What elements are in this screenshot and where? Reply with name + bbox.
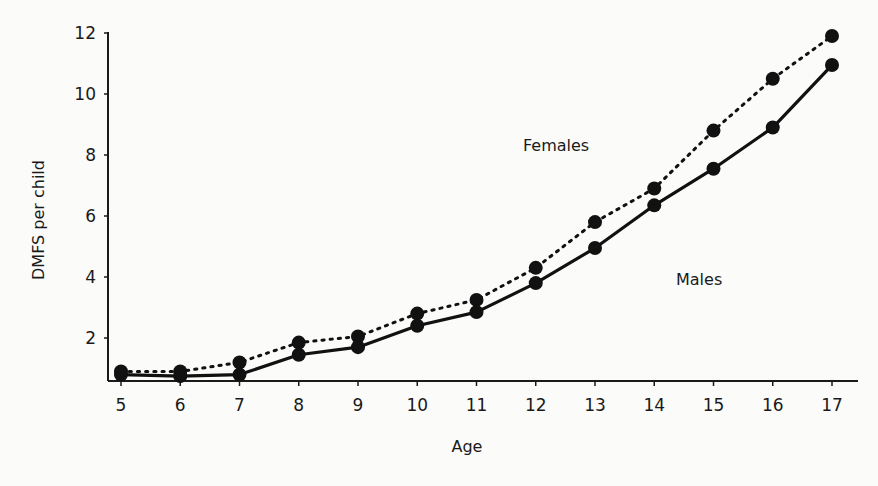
y-axis-title: DMFS per child <box>29 160 48 280</box>
data-point <box>351 340 365 354</box>
axes <box>108 32 858 381</box>
data-point <box>588 215 602 229</box>
x-tick-label: 11 <box>466 395 488 415</box>
data-point <box>173 369 187 383</box>
x-tick-label: 5 <box>116 395 127 415</box>
y-tick-label: 8 <box>85 145 96 165</box>
data-point <box>647 198 661 212</box>
y-tick-label: 2 <box>85 328 96 348</box>
data-point <box>588 241 602 255</box>
series-label-females: Females <box>523 136 589 155</box>
x-tick-label: 9 <box>353 395 364 415</box>
data-point <box>233 368 247 382</box>
y-tick-label: 10 <box>74 84 96 104</box>
data-point <box>647 182 661 196</box>
series-females <box>114 29 839 379</box>
data-point <box>825 58 839 72</box>
data-point <box>707 162 721 176</box>
data-point <box>114 368 128 382</box>
series-line <box>121 65 832 376</box>
x-tick-label: 8 <box>293 395 304 415</box>
data-point <box>529 276 543 290</box>
data-point <box>825 29 839 43</box>
data-point <box>529 261 543 275</box>
data-point <box>410 319 424 333</box>
x-tick-label: 13 <box>584 395 606 415</box>
series-males <box>114 58 839 383</box>
data-point <box>766 72 780 86</box>
data-point <box>410 307 424 321</box>
y-tick-label: 12 <box>74 23 96 43</box>
y-tick-label: 4 <box>85 267 96 287</box>
data-point <box>707 124 721 138</box>
x-tick-label: 12 <box>525 395 547 415</box>
x-tick-label: 7 <box>234 395 245 415</box>
x-tick-label: 16 <box>762 395 784 415</box>
series-line <box>121 36 832 372</box>
x-ticks: 567891011121314151617 <box>116 381 843 415</box>
series-label-males: Males <box>676 270 722 289</box>
x-tick-label: 6 <box>175 395 186 415</box>
y-ticks: 24681012 <box>74 23 108 348</box>
x-tick-label: 14 <box>643 395 665 415</box>
data-point <box>292 336 306 350</box>
y-tick-label: 6 <box>85 206 96 226</box>
series-group <box>114 29 839 383</box>
data-point <box>766 121 780 135</box>
data-point <box>470 293 484 307</box>
x-tick-label: 15 <box>703 395 725 415</box>
data-point <box>470 305 484 319</box>
x-axis-title: Age <box>452 437 483 456</box>
line-chart: 24681012 567891011121314151617 DMFS per … <box>0 0 878 486</box>
x-tick-label: 10 <box>406 395 428 415</box>
data-point <box>233 355 247 369</box>
x-tick-label: 17 <box>821 395 843 415</box>
data-point <box>292 348 306 362</box>
